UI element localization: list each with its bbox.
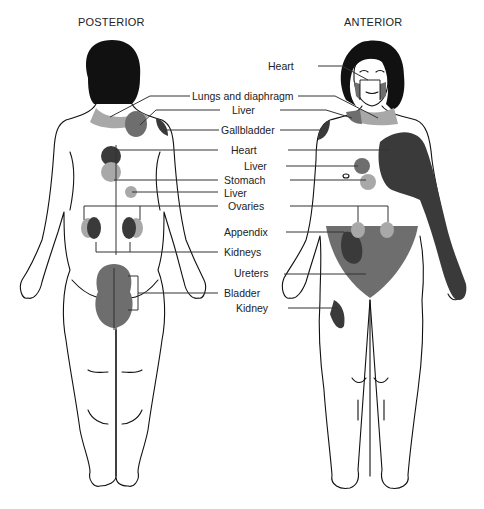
anterior-stomach-region	[360, 174, 376, 190]
anterior-kidney-region	[330, 300, 345, 328]
label-lungs-and-diaphragm: Lungs and diaphragm	[190, 90, 296, 102]
anterior-ovary-right	[380, 222, 394, 238]
posterior-kidney-left	[87, 217, 101, 239]
anterior-face-frame	[360, 80, 380, 100]
label-heart-chest: Heart	[229, 144, 259, 156]
anterior-body-outline	[282, 106, 462, 488]
label-liver-shoulder: Liver	[230, 104, 257, 116]
anterior-ovary-left	[351, 222, 365, 238]
posterior-knee-lines	[88, 370, 142, 424]
label-kidneys: Kidneys	[222, 246, 263, 258]
anterior-eyes	[360, 71, 384, 73]
label-heart-face: Heart	[266, 60, 296, 72]
anterior-navel	[343, 174, 349, 178]
posterior-title: POSTERIOR	[78, 16, 145, 28]
label-gallbladder: Gallbladder	[219, 124, 277, 136]
anterior-heart-face-region	[354, 82, 386, 100]
label-liver-back: Liver	[222, 187, 249, 199]
label-liver-abdomen: Liver	[242, 160, 269, 172]
posterior-stomach-region	[101, 162, 121, 182]
posterior-regions	[81, 108, 168, 328]
label-ovaries: Ovaries	[226, 200, 266, 212]
posterior-gallbladder-region	[156, 118, 168, 136]
anterior-hair	[341, 40, 405, 110]
posterior-figure	[20, 40, 205, 486]
posterior-kidney-right	[122, 217, 136, 239]
label-bladder: Bladder	[222, 287, 262, 299]
label-ureters: Ureters	[232, 267, 270, 279]
label-appendix: Appendix	[222, 226, 270, 238]
anterior-mouth	[366, 92, 378, 94]
anterior-ureters-region	[326, 226, 418, 298]
posterior-liver-shoulder-region	[125, 111, 147, 137]
posterior-hair	[86, 40, 140, 104]
label-stomach: Stomach	[222, 174, 267, 186]
anterior-title: ANTERIOR	[344, 16, 402, 28]
label-kidney: Kidney	[234, 302, 270, 314]
